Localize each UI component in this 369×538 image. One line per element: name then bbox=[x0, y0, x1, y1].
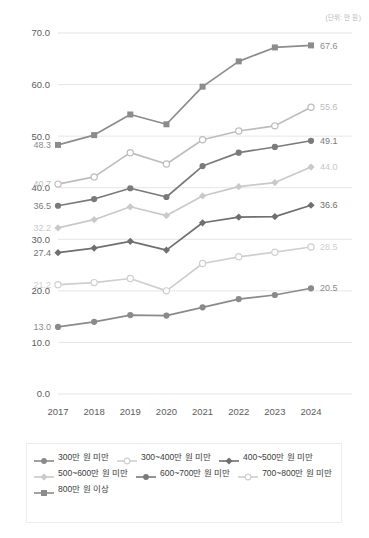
series-end-value-label: 36.6 bbox=[320, 200, 338, 210]
x-axis-tick-label: 2021 bbox=[192, 406, 213, 417]
series-start-value-label: 21.2 bbox=[33, 280, 51, 290]
x-axis-tick-label: 2024 bbox=[300, 406, 321, 417]
legend-item-label: 700~800만 원 미만 bbox=[262, 469, 332, 478]
series-end-value-label: 44.0 bbox=[320, 162, 338, 172]
data-point-marker bbox=[55, 324, 61, 330]
data-point-marker bbox=[307, 202, 314, 209]
data-point-marker bbox=[55, 181, 61, 187]
x-axis-tick-label: 2023 bbox=[264, 406, 285, 417]
series-line bbox=[58, 205, 311, 252]
legend-marker-icon bbox=[116, 452, 138, 462]
data-point-marker bbox=[163, 313, 169, 319]
data-point-marker bbox=[308, 285, 314, 291]
legend-row: 500~600만 원 미만600~700만 원 미만700~800만 원 미만 bbox=[33, 468, 335, 478]
x-axis-tick-label: 2019 bbox=[120, 406, 141, 417]
data-point-marker bbox=[91, 280, 97, 286]
legend-item-label: 400~500만 원 미만 bbox=[243, 453, 313, 462]
data-point-marker bbox=[236, 58, 242, 64]
legend-marker-icon bbox=[237, 468, 259, 478]
legend-item-label: 600~700만 원 미만 bbox=[160, 469, 230, 478]
data-point-marker bbox=[308, 42, 314, 48]
series-start-value-label: 27.4 bbox=[33, 248, 51, 258]
data-point-marker bbox=[91, 132, 97, 138]
plot-area: 0.010.020.030.040.050.060.070.0201720182… bbox=[0, 20, 369, 420]
data-point-marker bbox=[235, 214, 242, 221]
legend-item-label: 300만 원 미만 bbox=[58, 453, 109, 462]
data-point-marker bbox=[307, 163, 314, 170]
legend-item[interactable]: 600~700만 원 미만 bbox=[135, 468, 230, 478]
legend-item[interactable]: 500~600만 원 미만 bbox=[33, 468, 128, 478]
data-point-marker bbox=[163, 161, 169, 167]
data-point-marker bbox=[91, 216, 98, 223]
legend-item[interactable]: 300만 원 미만 bbox=[33, 452, 109, 462]
data-point-marker bbox=[308, 244, 314, 250]
y-axis-tick-label: 60.0 bbox=[32, 79, 51, 90]
data-point-marker bbox=[91, 196, 97, 202]
x-axis-tick-label: 2017 bbox=[47, 406, 68, 417]
data-point-marker bbox=[236, 150, 242, 156]
data-point-marker bbox=[91, 174, 97, 180]
data-point-marker bbox=[54, 249, 61, 256]
data-point-marker bbox=[200, 84, 206, 90]
data-point-marker bbox=[199, 137, 205, 143]
series-end-value-label: 20.5 bbox=[320, 283, 338, 293]
data-point-marker bbox=[55, 282, 61, 288]
legend-item[interactable]: 400~500만 원 미만 bbox=[218, 452, 313, 462]
series-end-value-label: 28.5 bbox=[320, 242, 338, 252]
chart-svg: 0.010.020.030.040.050.060.070.0201720182… bbox=[0, 20, 369, 420]
series-end-value-label: 55.6 bbox=[320, 102, 338, 112]
data-point-marker bbox=[308, 138, 314, 144]
series-end-value-label: 67.6 bbox=[320, 41, 338, 51]
data-point-marker bbox=[127, 312, 133, 318]
data-point-marker bbox=[91, 244, 98, 251]
data-point-marker bbox=[55, 142, 61, 148]
chart-series: 36.549.1 bbox=[33, 136, 337, 211]
x-axis-tick-label: 2018 bbox=[84, 406, 105, 417]
data-point-marker bbox=[271, 179, 278, 186]
chart-series: 32.244.0 bbox=[33, 162, 337, 233]
legend-item[interactable]: 800만 원 이상 bbox=[33, 484, 109, 494]
line-chart: (단위: 만 원) 0.010.020.030.040.050.060.070.… bbox=[0, 0, 369, 538]
series-line bbox=[58, 141, 311, 206]
x-axis-tick-label: 2022 bbox=[228, 406, 249, 417]
data-point-marker bbox=[272, 292, 278, 298]
legend: 300만 원 미만300~400만 원 미만400~500만 원 미만500~6… bbox=[26, 443, 342, 523]
data-point-marker bbox=[236, 254, 242, 260]
x-axis-tick-label: 2020 bbox=[156, 406, 177, 417]
data-point-marker bbox=[55, 203, 61, 209]
data-point-marker bbox=[199, 192, 206, 199]
data-point-marker bbox=[127, 150, 133, 156]
data-point-marker bbox=[127, 111, 133, 117]
chart-series: 40.755.6 bbox=[33, 102, 337, 189]
data-point-marker bbox=[236, 296, 242, 302]
data-point-marker bbox=[308, 104, 314, 110]
legend-row: 800만 원 이상 bbox=[33, 484, 335, 494]
series-start-value-label: 32.2 bbox=[33, 223, 51, 233]
data-point-marker bbox=[91, 319, 97, 325]
data-point-marker bbox=[127, 238, 134, 245]
data-point-marker bbox=[199, 163, 205, 169]
series-start-value-label: 48.3 bbox=[33, 140, 51, 150]
series-start-value-label: 40.7 bbox=[33, 179, 51, 189]
data-point-marker bbox=[271, 213, 278, 220]
legend-rows: 300만 원 미만300~400만 원 미만400~500만 원 미만500~6… bbox=[33, 452, 335, 494]
data-point-marker bbox=[127, 185, 133, 191]
data-point-marker bbox=[199, 260, 205, 266]
legend-item[interactable]: 700~800만 원 미만 bbox=[237, 468, 332, 478]
data-point-marker bbox=[235, 183, 242, 190]
legend-marker-icon bbox=[218, 452, 240, 462]
legend-item-label: 300~400만 원 미만 bbox=[141, 453, 211, 462]
series-line bbox=[58, 45, 311, 145]
data-point-marker bbox=[163, 288, 169, 294]
chart-series: 48.367.6 bbox=[33, 41, 337, 151]
legend-marker-icon bbox=[33, 484, 55, 494]
data-point-marker bbox=[54, 224, 61, 231]
data-point-marker bbox=[163, 121, 169, 127]
data-point-marker bbox=[236, 128, 242, 134]
data-point-marker bbox=[272, 249, 278, 255]
legend-item[interactable]: 300~400만 원 미만 bbox=[116, 452, 211, 462]
series-start-value-label: 36.5 bbox=[33, 201, 51, 211]
legend-item-label: 500~600만 원 미만 bbox=[58, 469, 128, 478]
legend-item-label: 800만 원 이상 bbox=[58, 485, 109, 494]
y-axis-tick-label: 10.0 bbox=[32, 337, 51, 348]
